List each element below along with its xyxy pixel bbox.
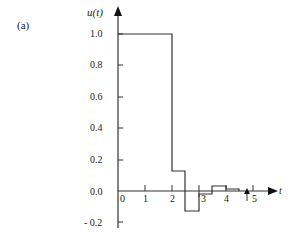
series-u [118,34,239,211]
x-axis-arrow-icon [268,187,278,195]
y-axis-arrow-icon [114,6,122,16]
axes [118,12,272,228]
arrow-annotation-icon [244,188,250,201]
y-ticks [118,34,123,222]
chart-plot [0,0,297,242]
